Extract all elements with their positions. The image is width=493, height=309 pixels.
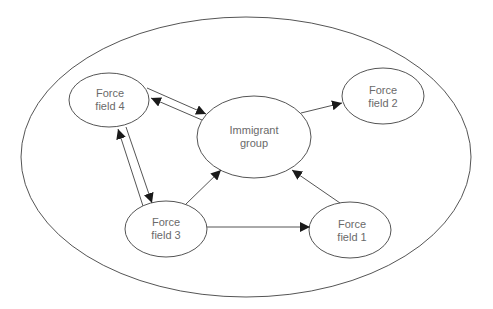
label-line-2: group (230, 137, 279, 150)
label-force-field-2: Force field 2 (368, 84, 397, 110)
label-line-2: field 4 (95, 100, 124, 113)
label-line-1: Immigrant (230, 124, 279, 137)
diagram-canvas (0, 0, 493, 309)
label-line-1: Force (95, 87, 124, 100)
label-line-1: Force (151, 216, 180, 229)
label-force-field-1: Force field 1 (337, 218, 366, 244)
arrow-immigrant-to-ff2 (301, 103, 342, 113)
label-immigrant-group: Immigrant group (230, 124, 279, 150)
arrow-ff1-to-immigrant (292, 170, 340, 203)
label-line-2: field 1 (337, 231, 366, 244)
label-force-field-3: Force field 3 (151, 216, 180, 242)
arrow-ff3-to-immigrant (186, 170, 221, 204)
label-line-1: Force (337, 218, 366, 231)
label-line-2: field 2 (368, 97, 397, 110)
arrow-ff4-to-immigrant (147, 88, 206, 114)
label-force-field-4: Force field 4 (95, 87, 124, 113)
label-line-1: Force (368, 84, 397, 97)
label-line-2: field 3 (151, 229, 180, 242)
